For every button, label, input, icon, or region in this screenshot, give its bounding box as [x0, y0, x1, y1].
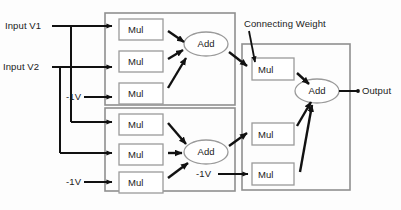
wire-mul1-to-add1 [168, 31, 184, 42]
label-bias-bottom: -1V [66, 177, 81, 187]
label-output: Output [362, 86, 391, 96]
wire-add2-to-mul8 [229, 133, 247, 146]
mul-1-label: Mul [128, 24, 143, 35]
mul-9-label: Mul [258, 169, 273, 180]
mul-8-label: Mul [258, 129, 273, 140]
mul-4-label: Mul [128, 119, 143, 130]
neuron1-internal-wires [168, 31, 186, 88]
add-2-label: Add [198, 146, 215, 157]
mul-2-label: Mul [128, 56, 143, 67]
wire-mul2-to-add1 [168, 50, 183, 59]
label-connecting-weight: Connecting Weight [244, 19, 326, 29]
label-input-v1: Input V1 [5, 21, 41, 31]
label-bias-right: -1V [196, 169, 211, 179]
wire-mul9-to-add3 [300, 105, 312, 172]
wire-connecting-weight-pointer [249, 31, 255, 62]
input-bus-wires [52, 26, 112, 182]
label-input-v2: Input V2 [3, 62, 39, 72]
wire-mul3-to-add1 [168, 58, 186, 88]
diagram-canvas: Mul Mul Mul Mul Mul Mul Mul Mul Mul Add … [0, 0, 401, 210]
interlayer-wires [229, 52, 247, 146]
wire-mul4-to-add2 [168, 123, 186, 144]
mul-6-label: Mul [128, 177, 143, 188]
connecting-weight-callout [249, 31, 255, 62]
wire-mul6-to-add2 [168, 163, 188, 178]
wire-add1-to-mul7 [229, 52, 247, 66]
label-bias-top: -1V [66, 92, 81, 102]
mul-3-label: Mul [128, 88, 143, 99]
add-3-label: Add [309, 85, 326, 96]
add-1-label: Add [198, 38, 215, 49]
mul-5-label: Mul [128, 149, 143, 160]
mul-7-label: Mul [258, 64, 273, 75]
